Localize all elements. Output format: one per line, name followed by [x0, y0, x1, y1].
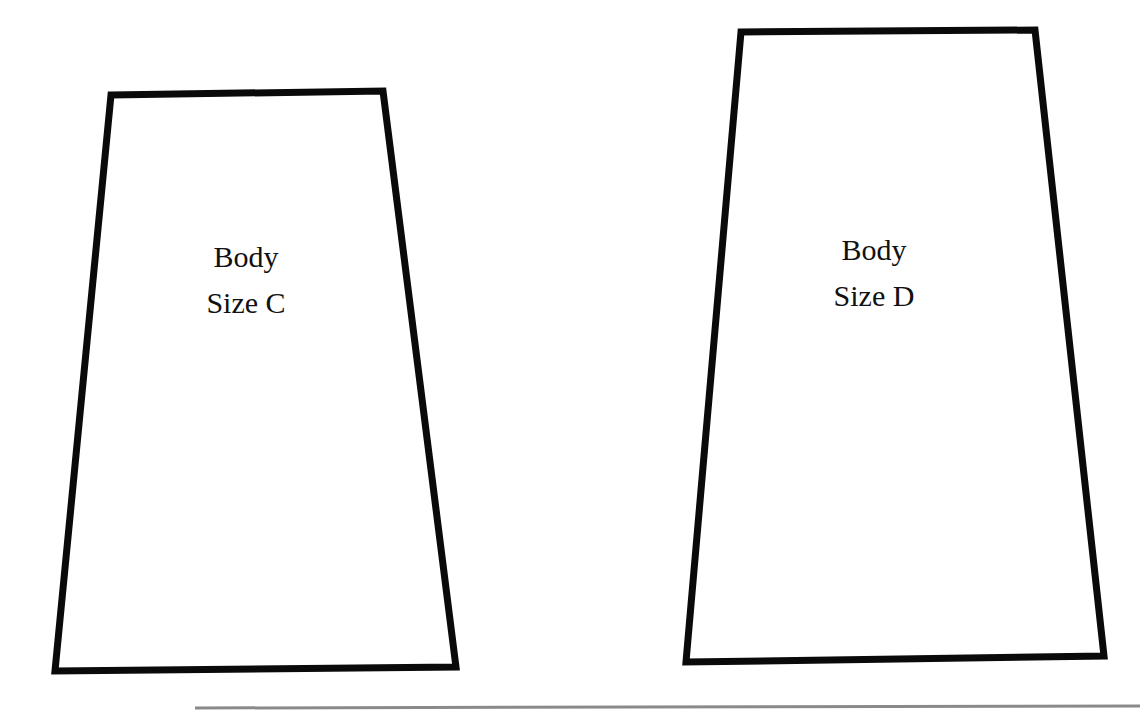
body-size-d-label: Body Size D [774, 227, 974, 319]
body-size-d-label-line2: Size D [774, 273, 974, 319]
body-size-d-label-line1: Body [774, 227, 974, 273]
body-size-c-shape [55, 91, 456, 671]
body-size-c-label-line1: Body [146, 234, 346, 280]
pattern-diagram [0, 0, 1140, 710]
body-size-d-shape [686, 30, 1104, 662]
body-size-c-label: Body Size C [146, 234, 346, 326]
body-size-c-label-line2: Size C [146, 280, 346, 326]
page-bottom-edge [195, 706, 1140, 708]
